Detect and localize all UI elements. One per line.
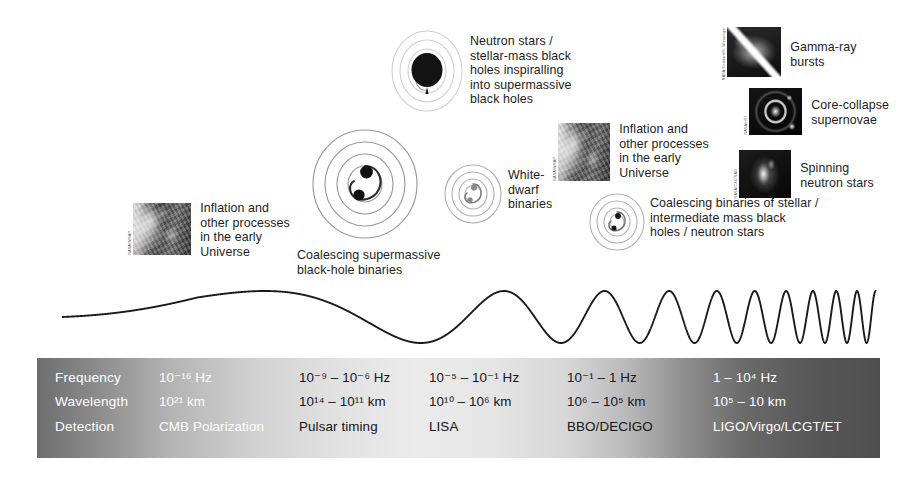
cell-wavelength-2: 10¹⁰ – 10⁶ km <box>429 391 512 412</box>
image-credit: NASA/WMAP <box>128 231 132 255</box>
gamma-ray-burst-image <box>727 27 781 77</box>
annotation-gamma-ray-bursts: NASA/Goddard/S. Wiessinger Gamma-ray bur… <box>722 27 857 80</box>
annotation-label: Inflation and other processes in the ear… <box>619 122 709 180</box>
spiral-binary-icon-wd <box>443 163 503 225</box>
cell-detection-1: Pulsar timing <box>299 416 378 437</box>
annotation-stellar-binaries: Coalescing binaries of stellar / interme… <box>650 196 819 240</box>
annotation-smbh-binaries: Coalescing supermassive black-hole binar… <box>297 248 440 277</box>
annotation-label: Coalescing binaries of stellar / interme… <box>650 196 819 240</box>
annotation-label: Coalescing supermassive black-hole binar… <box>297 248 440 277</box>
image-credit: NASA/CXC/SAO <box>734 169 738 198</box>
cmb-map-image <box>558 123 610 181</box>
inspiral-black-hole-icon <box>388 28 466 114</box>
table-row-frequency: Frequency 10⁻¹⁶ Hz 10⁻⁹ – 10⁻⁶ Hz 10⁻⁵ –… <box>37 367 880 388</box>
cmb-map-thumbnail-left: NASA/WMAP <box>128 203 191 255</box>
row-label-detection: Detection <box>55 416 160 437</box>
cell-detection-2: LISA <box>429 416 458 437</box>
cell-frequency-4: 1 – 10⁴ Hz <box>713 367 777 388</box>
image-credit: NASA/HST <box>744 115 748 135</box>
supernova-remnant-image <box>749 88 802 135</box>
cell-frequency-2: 10⁻⁵ – 10⁻¹ Hz <box>429 367 519 388</box>
cmb-map-thumbnail-right: NASA/WMAP <box>553 123 610 181</box>
supernova-remnant-thumbnail: NASA/HST <box>744 88 802 135</box>
cell-wavelength-4: 10⁵ – 10 km <box>713 391 786 412</box>
annotation-label: Inflation and other processes in the ear… <box>200 201 290 259</box>
cell-wavelength-3: 10⁶ – 10⁵ km <box>567 391 646 412</box>
cmb-map-image <box>133 203 191 255</box>
annotation-cmb-right: NASA/WMAP Inflation and other processes … <box>553 123 709 181</box>
annotation-label: Spinning neutron stars <box>800 161 874 190</box>
annotation-white-dwarf-binaries: White- dwarf binaries <box>508 168 552 212</box>
cell-wavelength-0: 10²¹ km <box>159 391 205 412</box>
table-row-detection: Detection CMB Polarization Pulsar timing… <box>37 416 880 437</box>
annotation-label: White- dwarf binaries <box>508 168 552 212</box>
annotation-label: Neutron stars / stellar-mass black holes… <box>470 34 572 107</box>
cell-frequency-3: 10⁻¹ – 1 Hz <box>567 367 637 388</box>
annotation-label: Core-collapse supernovae <box>811 98 889 127</box>
pulsar-nebula-thumbnail: NASA/CXC/SAO <box>734 150 791 198</box>
row-label-frequency: Frequency <box>55 367 160 388</box>
spiral-binary-icon-stellar <box>588 192 646 252</box>
gravitational-wave-chirp <box>0 278 916 356</box>
annotation-label: Gamma-ray bursts <box>790 40 856 69</box>
spiral-binary-icon-smbh <box>310 128 420 240</box>
cell-wavelength-1: 10¹⁴ – 10¹¹ km <box>299 391 386 412</box>
image-credit: NASA/Goddard/S. Wiessinger <box>722 27 726 80</box>
annotation-spinning-neutron-stars: NASA/CXC/SAO Spinning neutron stars <box>734 150 874 198</box>
spectrum-table: Frequency 10⁻¹⁶ Hz 10⁻⁹ – 10⁻⁶ Hz 10⁻⁵ –… <box>37 358 880 458</box>
pulsar-nebula-image <box>739 150 791 198</box>
row-label-wavelength: Wavelength <box>55 391 160 412</box>
cell-detection-4: LIGO/Virgo/LCGT/ET <box>713 416 842 437</box>
cell-frequency-1: 10⁻⁹ – 10⁻⁶ Hz <box>299 367 390 388</box>
cell-frequency-0: 10⁻¹⁶ Hz <box>159 367 212 388</box>
annotation-core-collapse-supernovae: NASA/HST Core-collapse supernovae <box>744 88 889 135</box>
image-credit: NASA/WMAP <box>553 157 557 181</box>
annotation-emri: Neutron stars / stellar-mass black holes… <box>470 34 572 107</box>
gamma-ray-burst-thumbnail: NASA/Goddard/S. Wiessinger <box>722 27 781 80</box>
figure-canvas: NASA/WMAP Inflation and other processes … <box>0 0 916 480</box>
cell-detection-0: CMB Polarization <box>159 416 264 437</box>
cell-detection-3: BBO/DECIGO <box>567 416 653 437</box>
table-row-wavelength: Wavelength 10²¹ km 10¹⁴ – 10¹¹ km 10¹⁰ –… <box>37 391 880 412</box>
annotation-cmb-left: NASA/WMAP Inflation and other processes … <box>128 203 290 259</box>
